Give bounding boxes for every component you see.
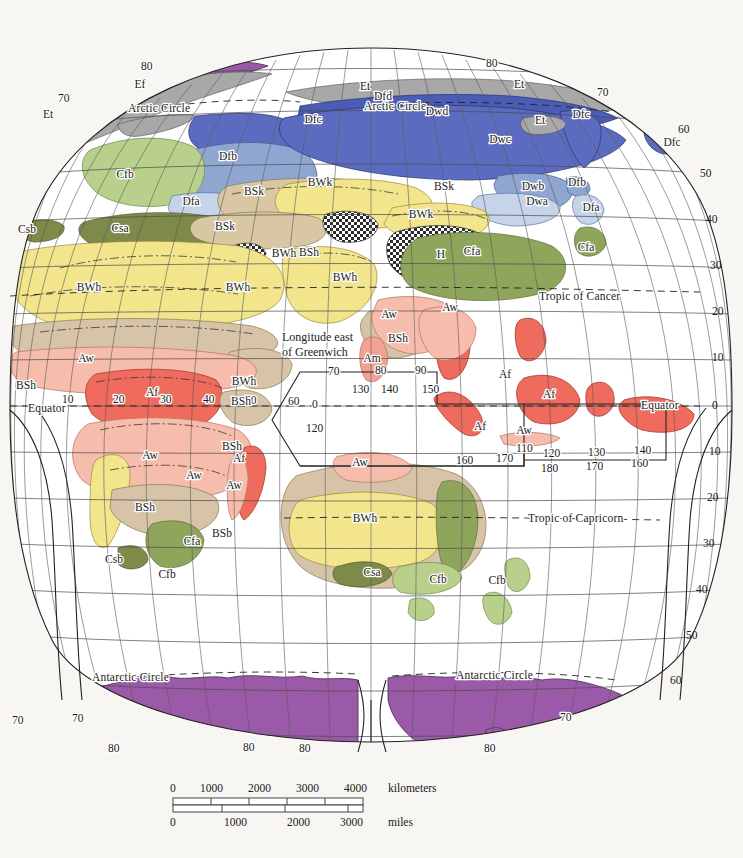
zone-label-Dfc: Dfc: [663, 136, 680, 148]
zone-label-Et: Et: [514, 78, 525, 90]
zone-label-Af: Af: [499, 368, 511, 380]
zone-label-Dfb: Dfb: [568, 176, 586, 188]
lon-inset-180: 180: [541, 462, 559, 474]
longitude-note-line2: of Greenwich: [282, 345, 348, 359]
lon-eq-40: 40: [203, 393, 215, 405]
lon-inset-0: 0: [312, 398, 318, 410]
zone-label-Am: Am: [363, 352, 380, 364]
zone-label-Dwa: Dwa: [526, 195, 548, 207]
lon-top-70-right: 70: [597, 86, 609, 98]
scale-mi-tick-3000: 3000: [340, 816, 363, 828]
label-antarctic-circle-east: Antarctic Circle: [456, 669, 533, 681]
lat-right-10: 10: [712, 351, 724, 363]
zone-label-BSh: BSh: [299, 246, 319, 258]
zone-label-BWh: BWh: [333, 271, 358, 283]
lon-eq-30: 30: [160, 393, 172, 405]
lon-eq-60: 60: [288, 395, 300, 407]
longitude-note-line1: Longitude east: [282, 330, 354, 344]
zone-label-Cfa: Cfa: [184, 535, 201, 547]
lon-top-80-right: 80: [486, 57, 498, 69]
zone-label-Csb: Csb: [18, 223, 36, 235]
label-equator-right: Equator: [641, 399, 679, 412]
scale-km-tick-3000: 3000: [296, 782, 319, 794]
zone-label-H: H: [437, 248, 445, 260]
scale-mi-unit: miles: [388, 816, 413, 828]
lon-inset-160b: 160: [631, 457, 649, 469]
zone-BWh-australia: [289, 492, 444, 569]
lon-eq-90: 90: [415, 364, 427, 376]
scale-km-unit: kilometers: [388, 782, 437, 794]
zone-label-Et: Et: [360, 80, 371, 92]
lon-eq-80: 80: [375, 364, 387, 376]
zone-label-BSh: BSh: [231, 395, 251, 407]
lon-eq-20: 20: [113, 393, 125, 405]
zone-label-Et: Et: [43, 108, 54, 120]
zone-label-Aw: Aw: [78, 352, 94, 364]
scale-bar-miles: [173, 805, 363, 812]
zone-label-Cfb: Cfb: [429, 573, 447, 585]
zone-label-Af: Af: [233, 452, 245, 464]
zone-label-BSk: BSk: [244, 185, 264, 197]
lat-right-80-ant2: 80: [484, 742, 496, 754]
lat-right-30s: 30: [703, 537, 715, 549]
zone-Cfb-newzealand-n: [505, 558, 530, 592]
lat-left-80-ant2: 80: [243, 741, 255, 753]
zone-label-BSh: BSh: [388, 332, 408, 344]
zone-label-BWh: BWh: [272, 247, 297, 259]
zone-label-Dfc: Dfc: [304, 113, 321, 125]
lon-inset-130b: 130: [588, 446, 606, 458]
zone-label-Dwb: Dwb: [522, 180, 545, 192]
lon-inset-170b: 170: [586, 460, 604, 472]
lon-inset-130: 130: [352, 383, 370, 395]
zone-label-Aw: Aw: [516, 424, 532, 436]
lon-inset-150: 150: [422, 383, 440, 395]
scale-km-tick-4000: 4000: [344, 782, 367, 794]
lat-left-80-ant: 80: [108, 742, 120, 754]
lon-inset-120: 120: [306, 422, 324, 434]
zone-label-Dwc: Dwc: [489, 133, 511, 145]
lat-right-60: 60: [678, 123, 690, 135]
zone-label-Aw: Aw: [352, 456, 368, 468]
zone-label-Aw: Aw: [442, 301, 458, 313]
label-equator-left: Equator: [28, 402, 66, 415]
zone-label-Ef: Ef: [135, 78, 146, 90]
lon-inset-140b: 140: [634, 444, 652, 456]
lon-inset-170: 170: [496, 452, 514, 464]
zone-label-Dfd: Dfd: [374, 90, 392, 102]
climate-map-root: Arctic Circle Arctic Circle Tropic of Ca…: [0, 0, 743, 858]
zone-label-Csa: Csa: [363, 566, 380, 578]
lat-left-70-ant2: 70: [72, 712, 84, 724]
lat-right-50: 50: [700, 167, 712, 179]
zone-label-Aw: Aw: [381, 308, 397, 320]
zone-label-Dwd: Dwd: [426, 105, 449, 117]
lat-left-70-ant: 70: [12, 714, 24, 726]
scale-km-tick-2000: 2000: [248, 782, 271, 794]
zone-label-Af: Af: [543, 388, 555, 400]
lat-right-80-ant: 80: [299, 742, 311, 754]
zone-label-Dfc: Dfc: [572, 108, 589, 120]
scale-bar-km: [173, 798, 363, 805]
scale-km-tick-1000: 1000: [200, 782, 223, 794]
lat-right-40: 40: [706, 213, 718, 225]
zone-label-BSh: BSh: [16, 379, 36, 391]
label-tropic-of-cancer: Tropic of Cancer: [539, 290, 620, 303]
lat-right-60s: 60: [670, 674, 682, 686]
lon-inset-120b: 120: [543, 447, 561, 459]
label-tropic-of-capricorn: Tropic of Capricorn: [528, 512, 623, 525]
longitude-note: Longitude east of Greenwich: [282, 330, 354, 359]
zone-label-BWh: BWh: [226, 281, 251, 293]
zone-Af-sulawesi: [586, 382, 614, 416]
lon-inset-160: 160: [456, 454, 474, 466]
climate-map-svg: Arctic Circle Arctic Circle Tropic of Ca…: [0, 0, 743, 858]
zone-label-BSb: BSb: [212, 527, 232, 539]
zone-label-BWh: BWh: [77, 281, 102, 293]
zone-label-Dfa: Dfa: [582, 201, 599, 213]
lon-eq-70: 70: [328, 365, 340, 377]
lon-inset-110: 110: [516, 442, 533, 454]
zone-label-BWh: BWh: [353, 512, 378, 524]
zone-label-BWk: BWk: [308, 176, 333, 188]
lat-right-20s: 20: [707, 491, 719, 503]
zone-label-Dfb: Dfb: [219, 150, 237, 162]
zone-label-Cfa: Cfa: [578, 241, 595, 253]
zone-label-BSh: BSh: [135, 501, 155, 513]
